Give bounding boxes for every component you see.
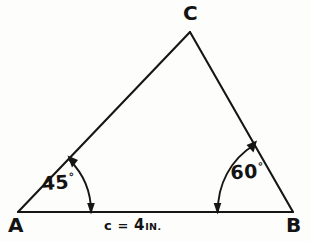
side-cb-line xyxy=(190,32,293,212)
side-c-name: c xyxy=(104,218,112,233)
triangle-figure xyxy=(0,0,311,241)
angle-label-b-value: 60 xyxy=(230,160,259,183)
degree-symbol-icon: ° xyxy=(257,160,264,173)
side-length-label-c: c = 4IN. xyxy=(104,216,161,234)
side-c-unit: IN. xyxy=(145,221,161,232)
angle-label-a: 45° xyxy=(41,172,76,194)
angle-label-b: 60° xyxy=(230,161,264,182)
vertex-label-c: C xyxy=(183,3,198,23)
diagram-canvas: A B C 45° 60° c = 4IN. xyxy=(0,0,311,241)
vertex-label-a: A xyxy=(8,215,24,235)
degree-symbol-icon: ° xyxy=(68,171,75,184)
angle-label-a-value: 45 xyxy=(41,170,70,194)
side-c-value: 4 xyxy=(134,216,145,234)
vertex-label-b: B xyxy=(286,215,302,235)
angle-arc-a-arrowhead-side xyxy=(68,156,79,168)
equals-sign: = xyxy=(117,218,129,233)
